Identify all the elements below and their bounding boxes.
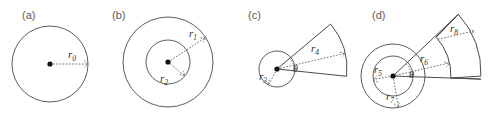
- panel-d-radius-label-r7: r7: [386, 90, 394, 105]
- panel-d-label: (d): [372, 9, 385, 21]
- panel-c-r4-sub: 4: [315, 48, 319, 57]
- panel-b-r1-sub: 1: [193, 33, 197, 42]
- panel-d: (d) r6 r8: [361, 9, 481, 108]
- panel-a: (a) r0: [12, 9, 88, 102]
- panel-d-radius-label-r5: r5: [374, 63, 382, 78]
- panel-d-radius-line-r6: [393, 63, 450, 76]
- panel-c-r3-sub: 3: [262, 76, 267, 85]
- panel-c-radius-label-r3: r3: [259, 70, 267, 85]
- panel-b-center-dot: [165, 59, 170, 64]
- panel-a-radius-label-r0: r0: [68, 48, 76, 63]
- panel-a-label: (a): [22, 9, 35, 21]
- panel-d-radius-arrowhead-r6: [444, 62, 449, 67]
- figure-svg: (a) r0 (b) r1 r2: [0, 0, 489, 119]
- panel-b-radius-arrowhead-r2: [180, 71, 185, 76]
- panel-d-r6-sub: 6: [424, 58, 428, 67]
- panel-b-radius-label-r1: r1: [189, 27, 197, 42]
- panel-c-theta-label: θ: [293, 63, 298, 74]
- panel-c-radius-label-r4: r4: [311, 42, 319, 57]
- figure-canvas: (a) r0 (b) r1 r2: [0, 0, 489, 119]
- panel-d-r5-sub: 5: [378, 69, 382, 78]
- panel-d-theta-label: θ: [409, 69, 414, 80]
- panel-c-radius-line-r4: [277, 53, 345, 69]
- panel-c-radius-line-r3: [269, 69, 278, 85]
- panel-b-radius-label-r2: r2: [160, 72, 168, 87]
- panel-d-radius-label-r8: r8: [450, 22, 458, 37]
- panel-d-center-dot: [390, 73, 395, 78]
- panel-c-label: (c): [248, 9, 261, 21]
- panel-b-radius-line-r2: [168, 62, 185, 76]
- panel-d-radius-label-r6: r6: [420, 52, 428, 67]
- panel-a-radius-sub: 0: [72, 54, 76, 63]
- panel-b: (b) r1 r2: [112, 9, 213, 107]
- panel-c-center-dot: [274, 66, 279, 71]
- panel-b-r2-sub: 2: [164, 78, 168, 87]
- panel-d-radius-line-r5: [373, 76, 393, 80]
- panel-c: (c) r4 r3 θ: [248, 9, 347, 87]
- panel-b-label: (b): [112, 9, 125, 21]
- panel-d-annular-sector: [436, 14, 481, 78]
- panel-a-center-dot: [47, 61, 52, 66]
- panel-d-r8-sub: 8: [454, 28, 458, 37]
- panel-d-r7-sub: 7: [390, 96, 394, 105]
